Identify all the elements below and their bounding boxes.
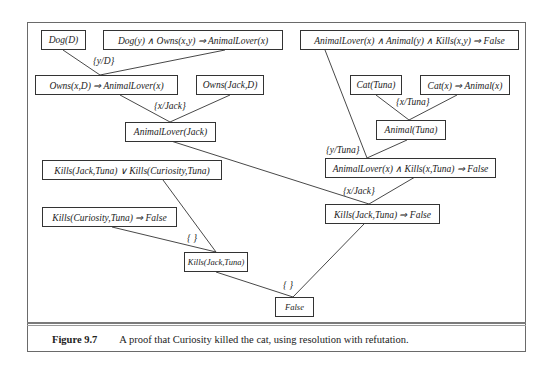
node-kills-curiosity-false: Kills(Curiosity,Tuna) ⇒ False <box>42 207 177 227</box>
node-lover-kills-tuna-rule: AnimalLover(x) ∧ Kills(x,Tuna) ⇒ False <box>325 158 496 178</box>
node-kills-disjunction: Kills(Jack,Tuna) ∨ Kills(Curiosity,Tuna) <box>42 160 222 180</box>
caption-divider <box>27 322 526 326</box>
node-cat-animal-rule: Cat(x) ⇒ Animal(x) <box>420 75 510 95</box>
substitution-y-d: {y/D} <box>93 56 114 66</box>
node-dog-d: Dog(D) <box>41 30 86 50</box>
substitution-x-jack-2: {x/Jack} <box>343 186 375 196</box>
figure-label: Figure 9.7 <box>52 334 97 345</box>
node-owns-jack-d: Owns(Jack,D) <box>196 75 264 95</box>
node-kills-jack-false: Kills(Jack,Tuna) ⇒ False <box>325 204 440 224</box>
substitution-x-tuna: {x/Tuna} <box>396 97 429 107</box>
node-owns-rule: Owns(x,D) ⇒ AnimalLover(x) <box>35 75 178 95</box>
node-animal-tuna: Animal(Tuna) <box>376 120 446 140</box>
node-false: False <box>275 297 314 317</box>
substitution-x-jack-1: {x/Jack} <box>154 101 186 111</box>
node-animallover-jack: AnimalLover(Jack) <box>125 122 216 142</box>
node-lover-animal-kills-rule: AnimalLover(x) ∧ Animal(y) ∧ Kills(x,y) … <box>300 30 519 50</box>
substitution-empty-2: { } <box>283 280 293 290</box>
node-cat-tuna: Cat(Tuna) <box>350 75 402 95</box>
substitution-empty-1: { } <box>187 233 197 243</box>
figure-caption-text: A proof that Curiosity killed the cat, u… <box>119 334 408 345</box>
node-kills-jack-tuna: Kills(Jack,Tuna) <box>184 252 248 272</box>
figure-caption: Figure 9.7A proof that Curiosity killed … <box>52 334 409 345</box>
node-dog-owns-rule: Dog(y) ∧ Owns(x,y) ⇒ AnimalLover(x) <box>103 30 283 50</box>
substitution-y-tuna: {y/Tuna} <box>326 145 359 155</box>
